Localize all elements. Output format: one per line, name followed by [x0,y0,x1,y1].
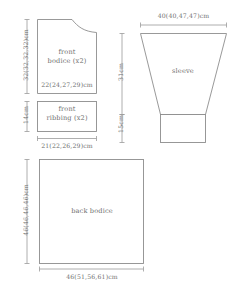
front-bodice-label-line2: bodice (x2) [37,58,97,66]
front-ribbing-label-line2: ribbing (x2) [37,115,97,123]
front-bodice-width-label: 22(24,27,29)cm [34,81,100,88]
back-bodice-label: back bodice [52,208,132,216]
sleeve-label: sleeve [153,68,213,76]
front-ribbing-label-line1: front [37,106,97,114]
back-bodice-height-label: 46(46,46,46)cm [22,157,29,263]
sleeve-width-bracket [141,23,227,28]
front-bodice-label-line1: front [37,49,97,57]
front-bodice-height-label: 32(32,32,32)cm [22,17,29,93]
sleeve-width-label: 40(40,47,47)cm [143,12,224,19]
sleeve-body-height-label: 31cm [117,55,124,89]
back-bodice-width-bracket [40,267,144,272]
front-width-label: 21(22,26,29)cm [31,142,103,149]
back-bodice-width-label: 46(51,56,61)cm [51,273,133,280]
pattern-schematic: front bodice (x2) 22(24,27,29)cm 32(32,3… [0,0,240,285]
sleeve-cuff-height-label: 15cm [117,108,124,140]
front-width-bracket [38,136,97,141]
sleeve-cuff-outline [161,115,206,143]
front-ribbing-height-label: 14cm [22,99,29,131]
